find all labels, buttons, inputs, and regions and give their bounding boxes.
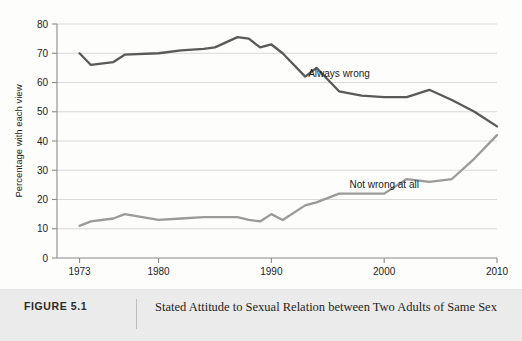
x-tick-label: 1973 (68, 266, 91, 277)
x-tick-label: 1990 (260, 266, 283, 277)
y-tick-label: 30 (37, 165, 49, 176)
y-tick-label: 20 (37, 194, 49, 205)
caption-divider (136, 299, 137, 329)
y-tick-label: 60 (37, 77, 49, 88)
x-tick-label: 2000 (373, 266, 396, 277)
series-annotation-label: Always wrong (308, 68, 370, 79)
figure-number-label: FIGURE 5.1 (24, 299, 136, 312)
figure-caption-bar: FIGURE 5.1 Stated Attitude to Sexual Rel… (0, 289, 522, 341)
figure-container: 01020304050607080 19731980199020002010 P… (0, 0, 522, 341)
x-tick-label: 2010 (486, 266, 509, 277)
series-annotations-group: Always wrongNot wrong at all (308, 68, 419, 190)
x-axis-ticks: 19731980199020002010 (68, 258, 508, 277)
figure-caption-text: Stated Attitude to Sexual Relation betwe… (155, 299, 504, 316)
series-line (80, 37, 497, 126)
y-tick-label: 80 (37, 19, 49, 30)
y-tick-label: 10 (37, 223, 49, 234)
y-tick-label: 40 (37, 136, 49, 147)
series-lines-group (80, 37, 497, 226)
series-annotation-label: Not wrong at all (349, 179, 418, 190)
y-tick-label: 0 (42, 253, 48, 264)
y-tick-label: 50 (37, 106, 49, 117)
y-axis-ticks: 01020304050607080 (37, 19, 57, 264)
y-tick-label: 70 (37, 48, 49, 59)
line-chart: 01020304050607080 19731980199020002010 P… (0, 0, 522, 285)
figure-caption-inner: FIGURE 5.1 Stated Attitude to Sexual Rel… (24, 299, 504, 329)
chart-plot-area: 01020304050607080 19731980199020002010 P… (0, 0, 522, 285)
series-line (80, 135, 497, 226)
x-tick-label: 1980 (147, 266, 170, 277)
y-axis-title: Percentage with each view (13, 84, 24, 197)
